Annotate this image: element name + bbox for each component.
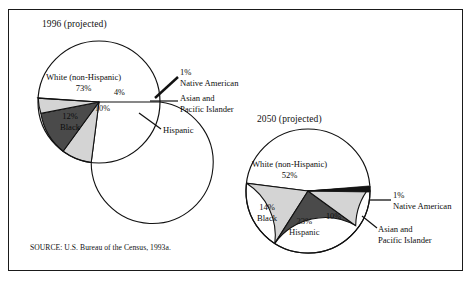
- callout-2050-native-name: Native American: [393, 201, 451, 211]
- label-2050-white-pct: 52%: [282, 170, 298, 180]
- source-note: SOURCE: U.S. Bureau of the Census, 1993a…: [30, 243, 171, 252]
- label-1996-white: White (non-Hispanic) 73%: [46, 72, 121, 93]
- label-2050-black: 14% Black: [257, 202, 277, 223]
- label-1996-black-name: Black: [60, 122, 80, 132]
- callout-2050-asian-line2: Pacific Islander: [378, 235, 432, 245]
- slice-1996-white: [91, 102, 213, 223]
- label-1996-white-pct: 73%: [76, 83, 92, 93]
- label-2050-hispanic: 23% Hispanic: [289, 216, 320, 237]
- chart-2050-title: 2050 (projected): [257, 114, 322, 124]
- pie-chart-1996: [37, 40, 161, 164]
- callout-1996-asian-line2: Pacific Islander: [180, 104, 234, 114]
- callout-2050-native: 1% Native American: [393, 190, 451, 211]
- callout-2050-native-pct: 1%: [393, 190, 404, 200]
- label-1996-black-pct: 12%: [62, 111, 78, 121]
- callout-2050-asian: Asian and Pacific Islander: [378, 224, 432, 245]
- callout-1996-native-pct: 1%: [180, 67, 191, 77]
- callout-1996-asian-line1: Asian and: [180, 93, 215, 103]
- label-1996-asian-pct: 4%: [114, 88, 125, 99]
- callout-1996-native-name: Native American: [180, 78, 238, 88]
- label-2050-black-pct: 14%: [259, 202, 275, 212]
- label-2050-hispanic-pct: 23%: [296, 216, 312, 226]
- pie-1996-svg: [37, 40, 161, 164]
- label-2050-white-name: White (non-Hispanic): [252, 159, 327, 169]
- label-1996-hispanic-pct: 10%: [95, 104, 110, 115]
- label-2050-black-name: Black: [257, 213, 277, 223]
- label-1996-black: 12% Black: [60, 111, 80, 132]
- callout-2050-asian-line1: Asian and: [378, 224, 413, 234]
- label-1996-white-name: White (non-Hispanic): [46, 72, 121, 82]
- figure-root: 1996 (projected) White (non-Hispanic) 73: [0, 0, 473, 288]
- callout-1996-native: 1% Native American: [180, 67, 238, 88]
- callout-1996-asian: Asian and Pacific Islander: [180, 93, 234, 114]
- label-2050-asian-pct: 10%: [326, 212, 341, 223]
- label-2050-white: White (non-Hispanic) 52%: [252, 159, 327, 180]
- label-2050-hispanic-name: Hispanic: [289, 227, 320, 237]
- callout-1996-hispanic: Hispanic: [163, 125, 194, 136]
- chart-1996-title: 1996 (projected): [42, 19, 107, 29]
- slice-2050-native: [308, 187, 370, 191]
